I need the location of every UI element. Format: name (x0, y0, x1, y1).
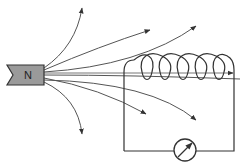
coil (134, 54, 234, 80)
induction-diagram: N (0, 0, 241, 168)
magnet-pole-label: N (24, 69, 32, 81)
bar-magnet: N (7, 65, 44, 85)
field-line-up-steep (44, 8, 82, 68)
field-line-down-far (44, 80, 196, 120)
field-line-up-far (44, 26, 196, 72)
field-line-up-mid (44, 30, 150, 70)
circuit-right-wire (196, 70, 234, 151)
field-line-down-steep (44, 82, 82, 134)
galvanometer (174, 139, 196, 161)
circuit (124, 54, 234, 151)
field-line-straight-lower (44, 75, 240, 79)
